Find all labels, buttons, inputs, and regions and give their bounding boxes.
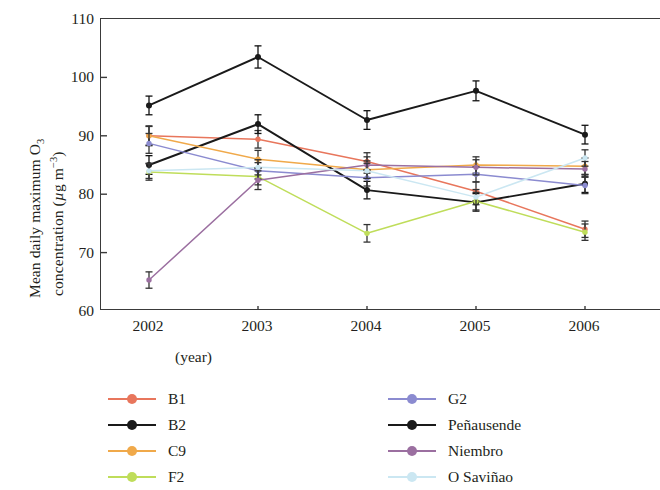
legend-marker-icon bbox=[108, 471, 156, 483]
legend-marker-icon bbox=[108, 445, 156, 457]
y-tick-100: 100 bbox=[54, 69, 94, 85]
legend-label-b2: B2 bbox=[168, 417, 186, 433]
x-tick-2005: 2005 bbox=[460, 318, 491, 334]
x-axis-title: (year) bbox=[0, 348, 627, 366]
legend-item-c9: C9 bbox=[108, 438, 186, 464]
x-tick-2006: 2006 bbox=[569, 318, 600, 334]
y-tick-80: 80 bbox=[54, 186, 94, 202]
x-tick-2004: 2004 bbox=[351, 318, 382, 334]
x-axis-tick-labels: 2002 2003 2004 2005 2006 bbox=[0, 318, 627, 340]
legend-marker-icon bbox=[108, 419, 156, 431]
legend-label-b1: B1 bbox=[168, 391, 186, 407]
x-axis-title-text: (year) bbox=[175, 348, 212, 365]
y-tick-70: 70 bbox=[54, 245, 94, 261]
legend-marker-icon bbox=[388, 471, 436, 483]
legend-item-b1: B1 bbox=[108, 386, 186, 412]
legend-item-penausende: Peñausende bbox=[388, 412, 521, 438]
legend-marker-icon bbox=[108, 393, 156, 405]
x-tick-2002: 2002 bbox=[133, 318, 164, 334]
legend-label-g2: G2 bbox=[448, 391, 467, 407]
legend-item-niembro: Niembro bbox=[388, 438, 521, 464]
y-axis-title-line1: Mean daily maximum O3 bbox=[26, 139, 46, 298]
y-tick-110: 110 bbox=[54, 11, 94, 27]
legend-item-o-savinao: O Saviñao bbox=[388, 464, 521, 490]
legend-column-right: G2 Peñausende Niembro O Saviñao bbox=[388, 386, 521, 490]
legend-column-left: B1 B2 C9 F2 bbox=[108, 386, 186, 490]
legend-label-f2: F2 bbox=[168, 469, 184, 485]
series-canvas bbox=[101, 19, 660, 310]
y-axis-tick-labels: 110 100 90 80 70 60 bbox=[48, 0, 94, 320]
legend-label-o-savinao: O Saviñao bbox=[448, 469, 513, 485]
plot-area bbox=[100, 18, 660, 310]
legend-marker-icon bbox=[388, 393, 436, 405]
legend-item-b2: B2 bbox=[108, 412, 186, 438]
x-tick-2003: 2003 bbox=[242, 318, 273, 334]
legend-item-f2: F2 bbox=[108, 464, 186, 490]
y-tick-60: 60 bbox=[54, 303, 94, 319]
legend-label-niembro: Niembro bbox=[448, 443, 503, 459]
legend: B1 B2 C9 F2 bbox=[0, 386, 627, 490]
y-tick-90: 90 bbox=[54, 128, 94, 144]
legend-marker-icon bbox=[388, 445, 436, 457]
legend-marker-icon bbox=[388, 419, 436, 431]
legend-item-g2: G2 bbox=[388, 386, 521, 412]
legend-label-c9: C9 bbox=[168, 443, 186, 459]
legend-label-penausende: Peñausende bbox=[448, 417, 521, 433]
